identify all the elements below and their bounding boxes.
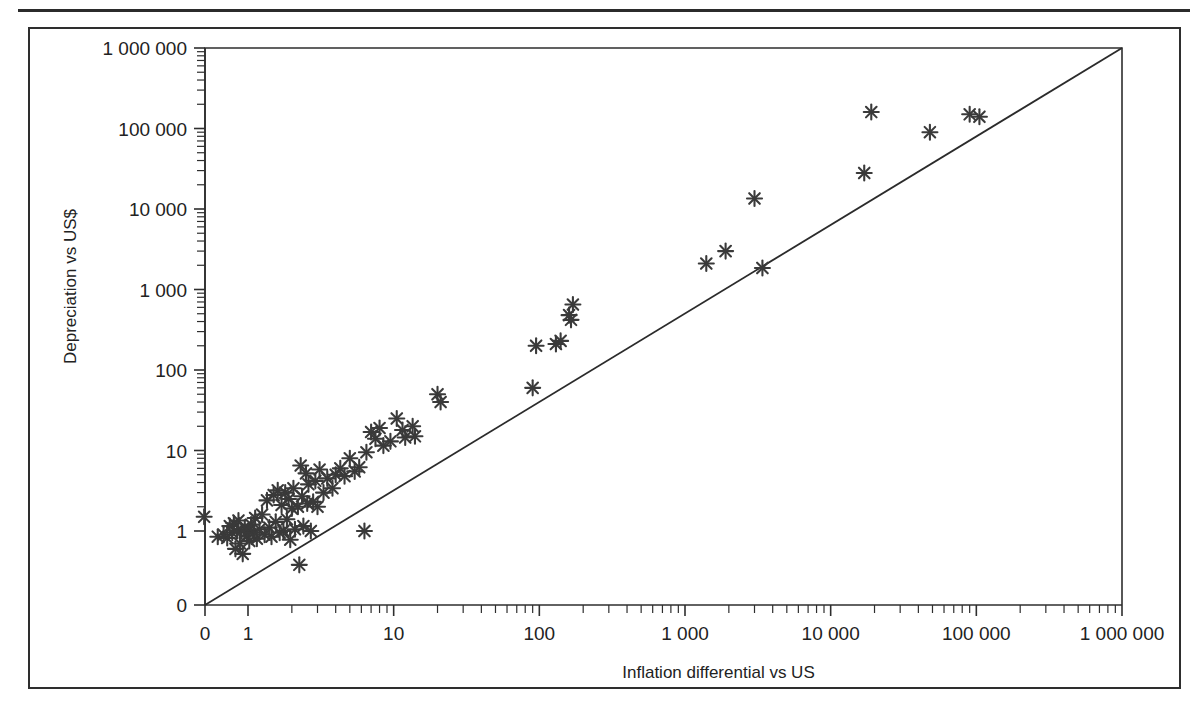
x-tick-label: 1 000	[661, 623, 709, 644]
data-point-marker	[407, 429, 422, 444]
axis-labels-group: 01101001 00010 000100 0001 000 000011010…	[61, 38, 1164, 682]
data-point-marker	[529, 338, 544, 353]
x-tick-label: 100 000	[942, 623, 1011, 644]
x-tick-label: 10	[383, 623, 404, 644]
data-point-marker	[755, 260, 770, 275]
scatter-chart: 01101001 00010 000100 0001 000 000011010…	[0, 0, 1204, 713]
x-tick-label: 100	[523, 623, 555, 644]
data-point-marker	[325, 481, 340, 496]
data-point-marker	[235, 546, 250, 561]
y-tick-label: 100 000	[118, 119, 187, 140]
data-point-marker	[962, 107, 977, 122]
y-tick-label: 1	[176, 521, 187, 542]
x-tick-label: 10 000	[802, 623, 860, 644]
y-axis-title: Depreciation vs US$	[61, 208, 80, 364]
x-tick-label: 1	[243, 623, 254, 644]
x-axis-title: Inflation differential vs US	[622, 663, 814, 682]
x-tick-label: 1 000 000	[1080, 623, 1165, 644]
data-point-marker	[922, 125, 937, 140]
data-point-marker	[972, 109, 987, 124]
data-point-marker	[276, 524, 291, 539]
y-tick-label: 0	[176, 595, 187, 616]
data-point-marker	[359, 445, 374, 460]
data-point-marker	[864, 105, 879, 120]
data-point-marker	[565, 297, 580, 312]
data-series-group	[197, 48, 1122, 605]
data-point-marker	[255, 507, 270, 522]
data-point-marker	[857, 166, 872, 181]
y-tick-label: 10	[166, 441, 187, 462]
data-point-marker	[383, 434, 398, 449]
data-point-marker	[433, 395, 448, 410]
data-point-marker	[699, 256, 714, 271]
x-tick-label: 0	[200, 623, 211, 644]
y-tick-label: 10 000	[129, 199, 187, 220]
data-point-marker	[268, 514, 283, 529]
y-tick-label: 1 000 000	[102, 38, 187, 59]
data-point-marker	[298, 466, 313, 481]
reference-line-45deg	[205, 48, 1122, 605]
data-point-marker	[564, 312, 579, 327]
data-point-marker	[525, 380, 540, 395]
y-tick-label: 100	[155, 360, 187, 381]
data-point-marker	[352, 460, 367, 475]
y-tick-label: 1 000	[139, 280, 187, 301]
data-point-marker	[292, 557, 307, 572]
data-point-marker	[718, 244, 733, 259]
data-point-marker	[197, 509, 212, 524]
figure-page: 01101001 00010 000100 0001 000 000011010…	[0, 0, 1204, 713]
data-point-marker	[357, 524, 372, 539]
data-point-marker	[747, 191, 762, 206]
data-point-marker	[405, 419, 420, 434]
data-point-marker	[372, 421, 387, 436]
data-point-marker	[553, 333, 568, 348]
data-point-marker	[303, 524, 318, 539]
data-point-marker	[310, 499, 325, 514]
